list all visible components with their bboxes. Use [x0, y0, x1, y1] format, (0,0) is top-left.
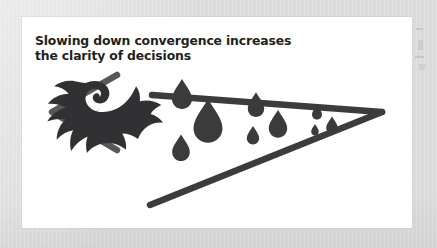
diagram-svg: [22, 17, 412, 228]
margin-smudge-artifact: [416, 28, 423, 30]
droplet-1: [172, 79, 192, 109]
droplet-8: [326, 116, 338, 133]
margin-smudge-artifact: [415, 56, 424, 58]
convergence-funnel-diagram: [22, 17, 412, 228]
droplet-9: [311, 124, 319, 135]
droplet-group: [172, 79, 338, 161]
droplet-2: [194, 99, 223, 142]
droplet-6: [247, 126, 259, 145]
droplet-3: [172, 135, 190, 161]
margin-smudge-artifact: [419, 64, 425, 70]
screenshot-canvas: Slowing down convergence increases the c…: [0, 0, 437, 248]
droplet-5: [269, 110, 287, 138]
dove-icon: [47, 81, 163, 153]
droplet-4: [248, 92, 264, 117]
margin-smudge-artifact: [418, 40, 423, 50]
slide-card: Slowing down convergence increases the c…: [22, 17, 412, 228]
